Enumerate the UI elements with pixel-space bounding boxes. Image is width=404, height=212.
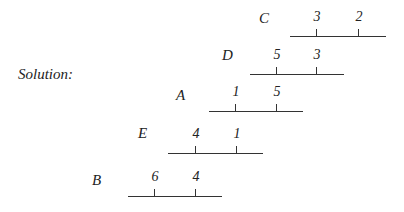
row-label: E (138, 125, 147, 142)
tick-value: 3 (314, 47, 321, 63)
tick-mark (316, 67, 317, 74)
tick-mark (276, 67, 277, 74)
row-label: D (222, 47, 233, 64)
tick-value: 1 (233, 84, 240, 100)
tick-mark (235, 104, 236, 111)
number-line (209, 111, 303, 112)
tick-value: 5 (274, 84, 281, 100)
row-label: C (259, 10, 269, 27)
tick-value: 3 (314, 9, 321, 25)
tick-mark (358, 29, 359, 36)
row-label: B (92, 172, 101, 189)
tick-value: 4 (193, 126, 200, 142)
tick-value: 5 (274, 47, 281, 63)
tick-value: 2 (356, 9, 363, 25)
tick-mark (195, 189, 196, 196)
row-label: A (176, 87, 185, 104)
number-line (128, 196, 222, 197)
tick-mark (236, 146, 237, 153)
tick-mark (316, 29, 317, 36)
number-line (168, 153, 263, 154)
tick-value: 6 (152, 169, 159, 185)
tick-mark (195, 146, 196, 153)
solution-label: Solution: (18, 66, 73, 83)
number-line (250, 74, 344, 75)
tick-value: 1 (234, 126, 241, 142)
tick-mark (276, 104, 277, 111)
tick-value: 4 (193, 169, 200, 185)
number-line (290, 36, 386, 37)
tick-mark (154, 189, 155, 196)
